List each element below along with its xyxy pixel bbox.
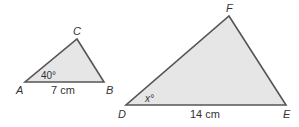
vertex-label-a: A	[15, 84, 23, 96]
triangle-abc-shape	[25, 39, 104, 82]
vertex-label-d: D	[118, 108, 126, 120]
angle-label-a: 40°	[41, 70, 56, 81]
vertex-label-f: F	[226, 2, 234, 14]
triangle-abc: A B C 7 cm 40°	[15, 25, 113, 96]
triangle-def-shape	[126, 16, 286, 105]
vertex-label-e: E	[283, 108, 291, 120]
angle-label-d: x°	[144, 93, 154, 104]
side-label-ab: 7 cm	[51, 84, 75, 96]
triangle-def: D E F 14 cm x°	[118, 2, 291, 120]
vertex-label-c: C	[73, 25, 81, 37]
vertex-label-b: B	[106, 84, 113, 96]
side-label-de: 14 cm	[190, 108, 220, 120]
similar-triangles-diagram: A B C 7 cm 40° D E F 14 cm x°	[0, 0, 299, 127]
